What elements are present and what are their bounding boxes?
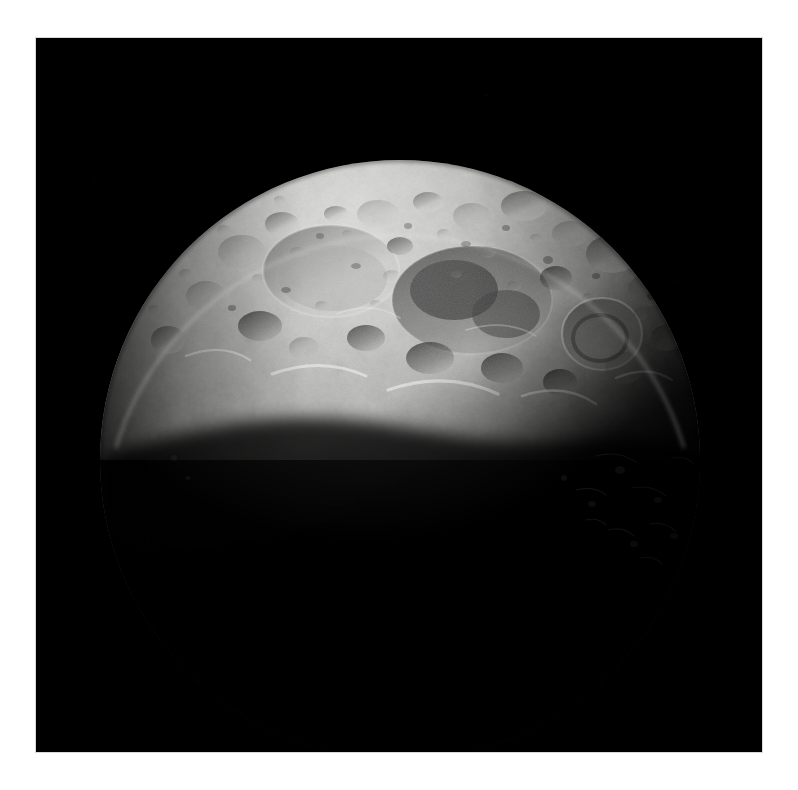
body-render	[36, 38, 762, 752]
page-root	[0, 0, 798, 790]
limb-shading	[100, 160, 700, 752]
photo-plate	[36, 38, 762, 752]
dwarf-planet-body	[36, 38, 762, 752]
